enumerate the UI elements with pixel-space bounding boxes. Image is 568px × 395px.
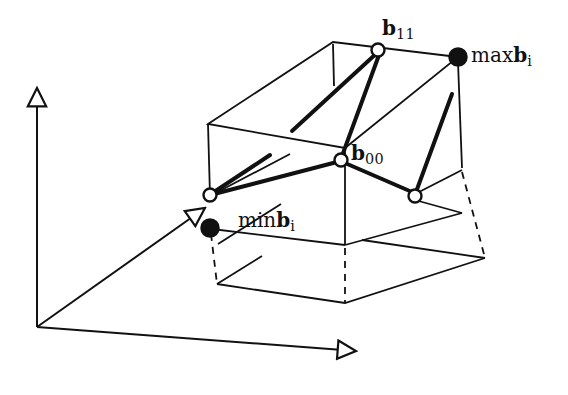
label-min-vector: b (276, 208, 290, 232)
shadow-outline (217, 258, 485, 303)
bounding-box-diagram: b11 b00 maxbi minbi (0, 0, 568, 395)
dashed-drop-lines (211, 172, 485, 303)
label-max-subscript: i (527, 53, 532, 69)
label-max-b: maxbi (471, 45, 532, 68)
label-b00: b00 (351, 143, 384, 166)
box-edge-right (458, 62, 462, 168)
box-hidden-edge-stub (333, 44, 334, 86)
node-b11 (372, 44, 385, 57)
shadow-back-edges (217, 256, 262, 284)
label-b00-subscript: 00 (365, 151, 384, 167)
horizontal-axis (37, 327, 356, 351)
node-right (409, 190, 422, 203)
label-min-subscript: i (290, 218, 295, 234)
depth-axis (37, 208, 205, 327)
box-inner-line-left (210, 154, 290, 196)
label-b11: b11 (382, 18, 415, 41)
label-b00-vector: b (351, 141, 365, 165)
projection-plane (217, 240, 485, 303)
node-max (449, 48, 467, 66)
label-min-operator: min (238, 208, 276, 232)
box-hidden-edge-right (419, 170, 462, 192)
box-edge-front-left (208, 124, 210, 196)
node-b00 (335, 154, 348, 167)
box-edge-bottom-right (345, 213, 462, 245)
axes-group (37, 88, 356, 351)
shadow-right-back-edge (362, 240, 485, 258)
drop-line-left (211, 234, 217, 284)
label-max-operator: max (471, 43, 513, 67)
node-min (201, 219, 219, 237)
control-edge-b00-right (345, 163, 412, 192)
drop-line-right (462, 172, 485, 258)
label-min-b: minbi (238, 210, 295, 233)
box-inner-line-right (415, 200, 462, 213)
label-b11-subscript: 11 (396, 26, 415, 42)
node-left (204, 189, 217, 202)
label-max-vector: b (513, 43, 527, 67)
label-b11-vector: b (382, 16, 396, 40)
